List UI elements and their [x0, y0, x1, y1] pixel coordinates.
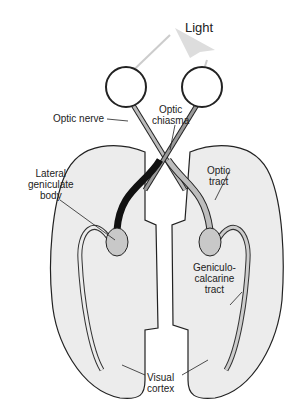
visual-pathway-diagram: [0, 0, 297, 416]
label-visual-cortex: Visualcortex: [147, 372, 174, 394]
left-eye-icon: [106, 67, 146, 107]
left-lgb: [106, 228, 128, 256]
label-geniculocalcarine: Geniculo-calcarinetract: [193, 262, 236, 295]
right-eye-icon: [182, 67, 222, 107]
label-lgb: Lateralgeniculatebody: [28, 168, 74, 201]
title-light: Light: [185, 22, 213, 33]
label-optic-tract: Optictract: [207, 165, 230, 187]
label-optic-nerve: Optic nerve: [53, 113, 104, 124]
right-lgb: [199, 228, 221, 256]
label-optic-chiasma: Opticchiasma: [152, 104, 189, 126]
